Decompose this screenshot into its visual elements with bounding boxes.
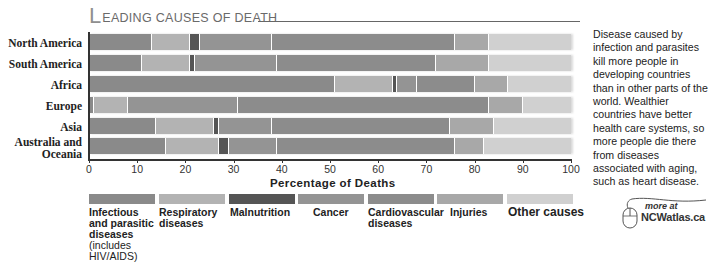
bar-segment [152,34,191,50]
bar-segment [238,97,489,113]
x-tick-label: 10 [131,163,143,175]
legend-swatch-cardiovascular [368,194,434,204]
title-initial: L [89,6,101,26]
bar-segment [450,118,493,134]
bar-europe [89,97,571,113]
legend-text: diseases [368,218,444,229]
bar-segment [523,97,571,113]
more-link-site[interactable]: NCWatlas.ca [641,211,705,223]
x-tick-label: 30 [228,163,240,175]
bar-segment [494,118,571,134]
x-axis-label: Percentage of Deaths [270,177,396,189]
bar-segment [89,76,335,92]
bar-segment [489,34,571,50]
x-tick-label: 0 [86,163,92,175]
legend-label-infectious: Infectious and parasitic diseases (inclu… [89,207,154,262]
title-text: EADING CAUSES OF DEATH [102,11,277,26]
legend-label-cardiovascular: Cardiovascular diseases [368,207,444,229]
x-tick-label: 90 [517,163,529,175]
x-tick-label: 50 [324,163,336,175]
bar-segment [128,97,239,113]
chart-title: L EADING CAUSES OF DEATH [89,4,277,26]
x-tick-label: 60 [372,163,384,175]
bar-segment [436,55,489,71]
bar-segment [277,138,455,154]
legend-swatch-injuries [437,194,503,204]
bar-segment [190,34,200,50]
legend-label-injuries: Injuries [450,207,487,218]
legend-label-cancer: Cancer [313,207,349,218]
more-link-prefix: more at [645,201,678,211]
legend-swatch-other [507,194,573,204]
bar-segment [219,138,229,154]
bar-segment [277,55,436,71]
row-label-africa: Africa [51,79,82,91]
x-tick-label: 20 [180,163,192,175]
bar-segment [475,76,509,92]
legend-swatch-respiratory [159,194,225,204]
bar-segment [219,118,272,134]
bar-segment [455,138,484,154]
x-tick-label: 80 [469,163,481,175]
bar-segment [94,97,128,113]
bar-segment [272,118,450,134]
side-note: Disease caused by infection and parasite… [593,28,708,189]
x-tick-label: 40 [276,163,288,175]
bar-asia [89,118,571,134]
bar-segment [89,55,142,71]
x-tick-label: 100 [562,163,580,175]
legend-label-other: Other causes [508,207,584,218]
bar-segment [397,76,416,92]
bar-segment [417,76,475,92]
bar-segment [455,34,489,50]
row-label-australia-line1: Australia and [15,136,82,148]
bar-segment [166,138,219,154]
bar-segment [484,138,571,154]
legend-label-respiratory: Respiratory diseases [159,207,217,229]
bar-segment [489,55,571,71]
bar-segment [195,55,277,71]
row-label-australia: Australia and Oceania [15,136,82,160]
bar-segment [200,34,272,50]
row-label-north-america: North America [8,37,82,49]
bar-segment [156,118,214,134]
bar-segment [335,76,393,92]
bar-australia-oceania [89,138,571,154]
row-label-south-america: South America [9,58,82,70]
legend-subtext: HIV/AIDS) [89,251,154,262]
legend-swatch-malnutrition [229,194,295,204]
y-axis [88,32,90,160]
title-rule [258,21,580,22]
bar-segment [508,76,571,92]
legend-text: diseases [159,218,217,229]
bar-segment [89,118,156,134]
row-label-asia: Asia [60,121,82,133]
bar-segment [489,97,523,113]
bar-north-america [89,34,571,50]
x-tick-label: 70 [421,163,433,175]
legend-swatch-cancer [298,194,364,204]
legend-swatch-infectious [89,194,155,204]
legend-label-malnutrition: Malnutrition [230,207,290,218]
bar-south-america [89,55,571,71]
bar-segment [229,138,277,154]
bar-africa [89,76,571,92]
row-label-europe: Europe [46,100,82,112]
bar-segment [142,55,190,71]
bar-segment [89,34,152,50]
row-label-australia-line2: Oceania [15,148,82,160]
bar-segment [89,138,166,154]
bar-segment [272,34,455,50]
